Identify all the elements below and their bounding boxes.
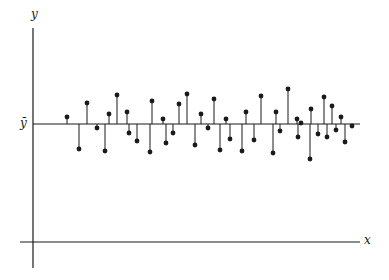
data-point [161, 117, 166, 122]
data-point [271, 151, 276, 156]
data-point [322, 95, 327, 100]
data-point [127, 131, 132, 136]
data-point [325, 135, 330, 140]
mean-label: ȳ [20, 117, 27, 129]
data-point [95, 126, 100, 131]
data-point [259, 94, 264, 99]
stem-plot: y ȳ x [0, 0, 389, 280]
data-point [193, 143, 198, 148]
data-point [252, 138, 257, 143]
data-point [295, 117, 300, 122]
data-point [244, 110, 249, 115]
data-point [177, 102, 182, 107]
data-point [286, 87, 291, 92]
y-axis-label: y [31, 8, 38, 20]
data-point [103, 149, 108, 154]
data-point [212, 97, 217, 102]
data-point [135, 139, 140, 144]
data-point [274, 110, 279, 115]
data-point [334, 128, 339, 133]
data-point [278, 129, 283, 134]
data-point [218, 148, 223, 153]
data-point [171, 131, 176, 136]
data-point [299, 121, 304, 126]
data-point [228, 137, 233, 142]
data-point [65, 115, 70, 120]
data-point [150, 99, 155, 104]
data-point [308, 157, 313, 162]
data-point [330, 104, 335, 109]
data-point [185, 92, 190, 97]
data-point [199, 112, 204, 117]
data-point [206, 126, 211, 131]
plot-canvas [0, 0, 389, 280]
data-point [107, 112, 112, 117]
data-point [350, 124, 355, 129]
data-point [148, 150, 153, 155]
data-point [296, 135, 301, 140]
data-point [125, 110, 130, 115]
data-point [164, 141, 169, 146]
data-point [224, 117, 229, 122]
data-point [339, 115, 344, 120]
data-point [85, 101, 90, 106]
data-point [115, 93, 120, 98]
x-axis-label: x [364, 234, 371, 246]
data-point [240, 149, 245, 154]
data-point [316, 132, 321, 137]
data-point [343, 140, 348, 145]
data-point [309, 107, 314, 112]
data-point [77, 147, 82, 152]
